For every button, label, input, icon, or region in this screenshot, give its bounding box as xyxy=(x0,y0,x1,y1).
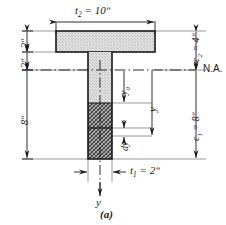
flange-shape xyxy=(56,31,155,52)
y-axis-label: y xyxy=(96,197,101,208)
c2-label: c2 = 4ʺ xyxy=(191,33,204,62)
neutral-axis-label: N.A. xyxy=(203,63,222,74)
y-bar-label: y xyxy=(147,107,158,112)
extension-lines xyxy=(22,31,206,182)
y-zero-label: y0 xyxy=(119,87,132,95)
dy-label: dy xyxy=(120,142,130,151)
stem-width-label: t1 = 2ʺ xyxy=(130,165,160,179)
flange-to-na-label: 2ʺ xyxy=(20,59,30,68)
c1-label: c1 = 8ʺ xyxy=(191,112,204,141)
tee-section-figure: t2 = 10ʺ 2ʺ 2ʺ 8ʺ c2 = 4ʺ c1 = 8ʺ N.A. y… xyxy=(0,0,226,225)
flange-width-label: t2 = 10ʺ xyxy=(75,5,110,19)
left-dimension-column xyxy=(22,31,33,159)
stem-depth-label: 8ʺ xyxy=(20,116,30,125)
flange-thickness-label: 2ʺ xyxy=(20,39,30,48)
figure-caption: (a) xyxy=(100,208,113,220)
